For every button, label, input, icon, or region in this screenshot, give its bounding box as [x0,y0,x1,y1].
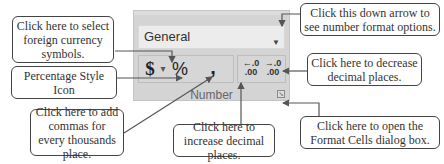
percent-style-button[interactable]: % [169,56,191,82]
callout-percent: Percentage Style Icon [11,66,117,99]
number-style-buttons: $ ▾ % , [138,55,234,83]
increase-decimal-icon-bottom: .00 [241,68,261,77]
decrease-decimal-button[interactable]: →.0 .00 [263,59,283,77]
accounting-format-button[interactable]: $ [143,56,157,82]
comma-style-button[interactable]: , [205,56,221,82]
group-title: Number [134,88,289,102]
callout-currency: Click here to select foreign currency sy… [12,16,114,63]
currency-dropdown-arrow-icon[interactable]: ▾ [159,56,167,82]
number-format-dropdown[interactable]: General ▼ [138,25,285,49]
number-ribbon-group: General ▼ $ ▾ % , ←.0 .00 →.0 .00 Number… [133,10,290,101]
callout-decrease-decimal: Click here to decrease decimal places. [307,53,422,86]
callout-increase-decimal: Click here to increase decimal places. [173,124,275,157]
dialog-launcher-icon[interactable]: ↘ [277,90,285,98]
increase-decimal-button[interactable]: ←.0 .00 [241,59,261,77]
decrease-decimal-icon-bottom: .00 [263,68,283,77]
callout-format-dropdown: Click this down arrow to see number form… [300,3,440,36]
decimal-buttons: ←.0 .00 →.0 .00 [237,55,286,83]
callout-dialog-launcher: Click here to open the Format Cells dial… [300,116,440,149]
number-format-value: General [144,29,190,44]
chevron-down-icon[interactable]: ▼ [272,32,280,54]
ribbon-top-band [134,11,289,15]
callout-comma: Click here to add commas for every thous… [30,109,124,156]
